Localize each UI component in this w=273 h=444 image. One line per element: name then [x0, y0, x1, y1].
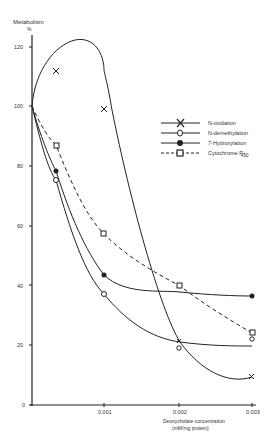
series-n-oxidation: [32, 39, 254, 379]
y-ticks: 0 20 40 60 80 100 120: [14, 44, 32, 408]
legend: N-oxidation N-demethylation 7-Hydroxylat…: [161, 119, 249, 158]
svg-text:20: 20: [17, 342, 23, 348]
legend-item: N-oxidation: [208, 120, 236, 126]
svg-text:120: 120: [14, 44, 23, 50]
legend-subscript: 450: [241, 153, 249, 158]
chart: Metabolism % 0 20 40 60 80 100 120 0.001…: [0, 0, 273, 444]
x-axis-label-unit: (mM/mg protein): [172, 425, 209, 431]
y-axis-label: Metabolism: [13, 19, 44, 25]
legend-item: N-demethylation: [208, 130, 248, 136]
svg-text:0.001: 0.001: [98, 409, 112, 415]
legend-item: 7-Hydroxylation: [208, 140, 246, 146]
svg-text:40: 40: [17, 283, 23, 289]
svg-text:0.002: 0.002: [173, 409, 187, 415]
svg-text:60: 60: [17, 223, 23, 229]
y-axis-label-unit: %: [27, 26, 32, 32]
svg-text:100: 100: [14, 103, 23, 109]
svg-text:80: 80: [17, 163, 23, 169]
legend-item: Cytochrome P: [208, 150, 243, 156]
svg-text:0.003: 0.003: [246, 409, 260, 415]
svg-text:0: 0: [22, 402, 25, 408]
x-axis-label: Deoxycholate concentration: [163, 418, 225, 424]
